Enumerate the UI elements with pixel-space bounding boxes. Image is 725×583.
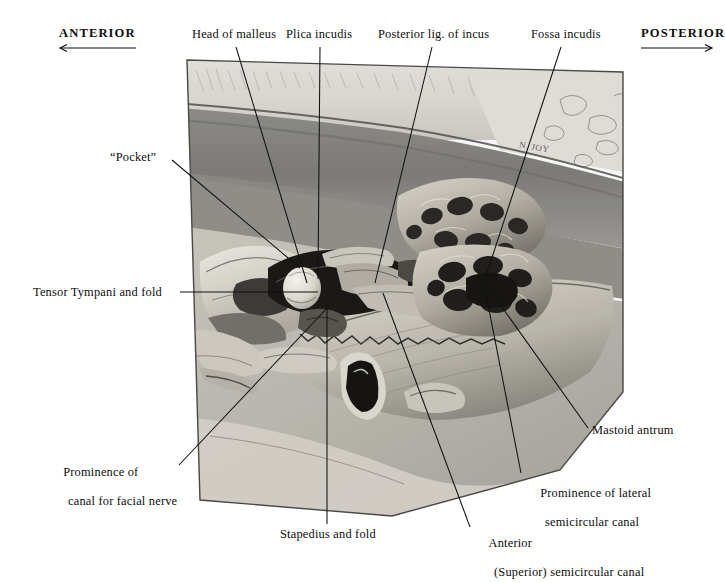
label-line-1: Anterior: [489, 536, 533, 550]
label-tensor-tympani-and-fold: Tensor Tympani and fold: [33, 285, 162, 300]
label-pocket: “Pocket”: [110, 150, 156, 165]
label-prominence-of-lateral-semicircular-canal: Prominence of lateral semicircular canal: [527, 471, 651, 559]
label-fossa-incudis: Fossa incudis: [531, 27, 601, 42]
plate-artwork: [180, 55, 635, 525]
label-line-2: semicircular canal: [527, 515, 651, 530]
label-line-2: canal for facial nerve: [50, 494, 177, 509]
label-mastoid-antrum: Mastoid antrum: [592, 423, 674, 438]
label-plica-incudis: Plica incudis: [286, 27, 352, 42]
label-line-2: (Superior) semicircular canal: [476, 565, 644, 580]
label-head-of-malleus: Head of malleus: [192, 27, 276, 42]
label-line-1: Prominence of lateral: [540, 486, 651, 500]
orientation-anterior-label: ANTERIOR: [59, 26, 136, 41]
label-stapedius-and-fold: Stapedius and fold: [280, 527, 376, 542]
label-posterior-lig-of-incus: Posterior lig. of incus: [378, 27, 489, 42]
orientation-posterior-label: POSTERIOR: [641, 26, 725, 41]
anterior-arrow-icon: [60, 45, 136, 52]
label-prominence-of-canal-for-facial-nerve: Prominence of canal for facial nerve: [50, 450, 177, 538]
posterior-arrow-icon: [641, 45, 712, 52]
label-line-1: Prominence of: [63, 465, 138, 479]
